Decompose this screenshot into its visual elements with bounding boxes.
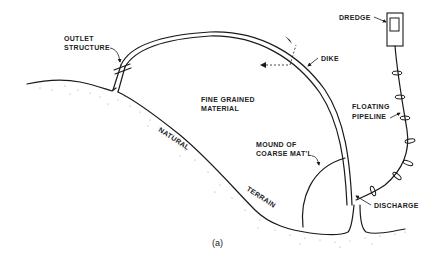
section-arrow-left bbox=[260, 62, 266, 68]
outlet-label-line2: STRUCTURE bbox=[64, 44, 110, 51]
containment-area-diagram: OUTLET STRUCTURE DREDGE DIKE FINE GRAINE… bbox=[0, 0, 441, 261]
discharge-label: DISCHARGE bbox=[374, 202, 419, 209]
outlet-leader bbox=[110, 48, 120, 62]
outlet-label-line1: OUTLET bbox=[64, 35, 94, 42]
mound-of-coarse-material bbox=[302, 158, 345, 227]
fine-grained-label-line2: MATERIAL bbox=[201, 105, 239, 112]
dike-outer bbox=[121, 32, 352, 205]
mound-label-line1: MOUND OF bbox=[256, 141, 297, 148]
mound-leader bbox=[312, 156, 319, 165]
outlet-structure-pipe bbox=[113, 65, 125, 92]
section-arrow-top bbox=[285, 36, 292, 44]
floating-pipeline-label-line2: PIPELINE bbox=[352, 113, 386, 120]
dredge-label: DREDGE bbox=[339, 14, 371, 21]
dredge-cabin bbox=[390, 18, 399, 31]
dredge-leader bbox=[374, 17, 386, 22]
floating-pipeline-label-line1: FLOATING bbox=[352, 103, 390, 110]
outlet-structure-crossbar bbox=[114, 64, 131, 74]
fine-grained-label-line1: FINE GRAINED bbox=[201, 96, 255, 103]
pipeline-leader bbox=[390, 113, 400, 118]
discharge-leader bbox=[356, 196, 371, 205]
mound-label-line2: COARSE MAT'L bbox=[256, 150, 313, 157]
terrain-right-line bbox=[360, 205, 405, 233]
natural-terrain-line bbox=[27, 80, 354, 234]
dike-label: DIKE bbox=[321, 55, 339, 62]
natural-label: NATURAL bbox=[157, 126, 191, 151]
dike-leader bbox=[308, 58, 318, 66]
figure-caption: (a) bbox=[212, 238, 223, 248]
